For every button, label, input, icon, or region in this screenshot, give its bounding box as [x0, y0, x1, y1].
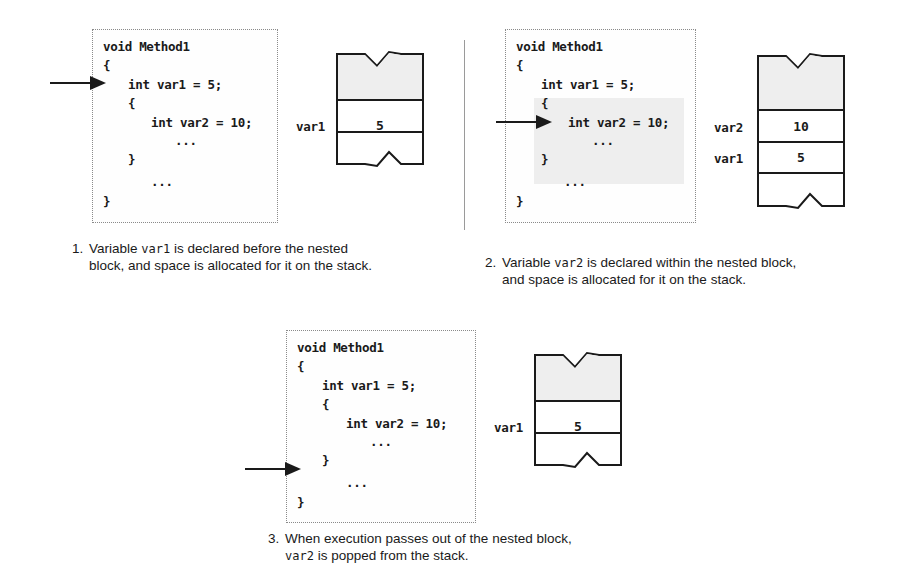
caption-text-part: Variable	[89, 241, 141, 256]
code-line: }	[128, 153, 135, 167]
caption-text-part: is declared before the nested	[170, 241, 348, 256]
caption-text: Variable var2 is declared within the nes…	[502, 254, 796, 272]
execution-arrow-icon	[50, 76, 106, 90]
stack-slot-label: var1	[494, 420, 523, 435]
code-line: void Method1	[297, 341, 384, 355]
code-box-3: void Method1 { int var1 = 5; { int var2 …	[286, 330, 476, 523]
code-line: int var2 = 10;	[568, 116, 669, 130]
caption-2: 2. Variable var2 is declared within the …	[485, 254, 885, 290]
code-line: ...	[346, 476, 368, 490]
code-line: }	[541, 153, 548, 167]
code-line: {	[103, 59, 110, 73]
stack-slot-value: 5	[337, 118, 423, 133]
caption-text-part: is popped from the stack.	[314, 548, 469, 563]
code-line: {	[297, 360, 304, 374]
caption-3: 3. When execution passes out of the nest…	[268, 530, 668, 566]
caption-number: 3.	[268, 530, 279, 547]
code-line: {	[516, 59, 523, 73]
code-line: int var2 = 10;	[151, 116, 252, 130]
code-line: int var1 = 5;	[322, 379, 416, 393]
code-line: int var1 = 5;	[541, 78, 635, 92]
caption-code: var1	[141, 242, 170, 256]
code-line: void Method1	[516, 40, 603, 54]
stack-slot-label: var1	[296, 119, 325, 134]
code-line: ...	[592, 134, 614, 148]
stack-slot-value: 10	[758, 119, 844, 134]
caption-text: and space is allocated for it on the sta…	[502, 271, 746, 288]
caption-text-part: Variable	[502, 255, 554, 270]
caption-number: 2.	[485, 254, 496, 271]
caption-text-part: is declared within the nested block,	[583, 255, 796, 270]
code-line: }	[297, 496, 304, 510]
stack-slot-value: 5	[535, 419, 621, 434]
code-line: ...	[564, 175, 586, 189]
caption-1: 1. Variable var1 is declared before the …	[72, 240, 452, 276]
caption-text: When execution passes out of the nested …	[285, 530, 572, 547]
caption-number: 1.	[72, 240, 83, 257]
code-line: {	[128, 97, 135, 111]
code-line: }	[516, 195, 523, 209]
code-line: void Method1	[103, 40, 190, 54]
stack-diagram-3	[533, 349, 623, 479]
code-line: ...	[151, 175, 173, 189]
stack-slot-label: var1	[714, 151, 743, 166]
code-line: int var1 = 5;	[128, 78, 222, 92]
code-line: ...	[175, 134, 197, 148]
code-line: {	[541, 97, 548, 111]
code-box-1: void Method1 { int var1 = 5; { int var2 …	[92, 29, 278, 223]
caption-text: Variable var1 is declared before the nes…	[89, 240, 348, 258]
code-line: }	[103, 195, 110, 209]
caption-code: var2	[554, 256, 583, 270]
caption-text: var2 is popped from the stack.	[285, 547, 468, 565]
stack-slot-label: var2	[714, 120, 743, 135]
execution-arrow-icon	[245, 462, 301, 476]
code-line: ...	[370, 435, 392, 449]
code-line: }	[322, 454, 329, 468]
code-line: {	[322, 398, 329, 412]
code-line: int var2 = 10;	[346, 417, 447, 431]
stack-diagram-2	[756, 50, 846, 220]
caption-code: var2	[285, 549, 314, 563]
execution-arrow-icon	[496, 115, 552, 129]
caption-text: block, and space is allocated for it on …	[89, 257, 372, 274]
stack-diagram-1	[335, 48, 425, 178]
panel-divider	[464, 40, 465, 230]
stack-slot-value: 5	[758, 150, 844, 165]
